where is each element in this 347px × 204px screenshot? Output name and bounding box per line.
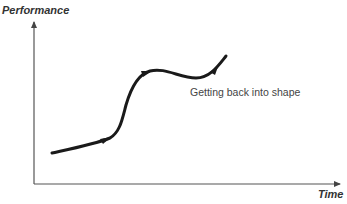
performance-curve: [52, 56, 226, 153]
curve-arrowhead-icon: [100, 137, 111, 144]
diagram-canvas: [0, 0, 347, 204]
curve-annotation: Getting back into shape: [190, 86, 300, 98]
x-axis-label: Time: [318, 188, 343, 200]
y-axis-label: Performance: [2, 4, 69, 16]
